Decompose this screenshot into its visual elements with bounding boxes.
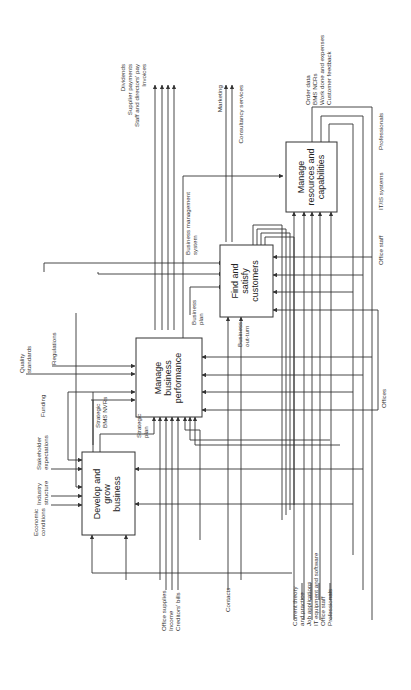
- svg-text:Business: Business: [190, 300, 197, 325]
- label-quality-standards: Quality standards: [18, 346, 32, 373]
- svg-text:resources and: resources and: [306, 148, 316, 205]
- svg-text:Order data: Order data: [304, 75, 311, 105]
- svg-text:Manage: Manage: [153, 362, 163, 395]
- svg-text:system: system: [191, 235, 198, 255]
- svg-text:expectations: expectations: [42, 435, 49, 470]
- svg-text:Office staff: Office staff: [319, 596, 326, 626]
- svg-text:performance: performance: [173, 353, 183, 404]
- svg-text:Invoices: Invoices: [140, 64, 147, 87]
- find-bottom-inputs: [228, 317, 241, 580]
- svg-text:business: business: [112, 476, 122, 512]
- svg-text:Marketing: Marketing: [216, 84, 223, 112]
- label-itis-systems: IT/IS systems: [377, 173, 384, 210]
- svg-text:Work done and expenses: Work done and expenses: [318, 35, 325, 105]
- svg-text:Economic: Economic: [32, 509, 39, 536]
- svg-text:Stakeholder: Stakeholder: [35, 437, 42, 470]
- svg-text:Regulations: Regulations: [50, 332, 57, 365]
- svg-text:Staff and directors' pay: Staff and directors' pay: [133, 63, 140, 127]
- svg-text:Supplier payments: Supplier payments: [126, 64, 133, 115]
- svg-text:conditions: conditions: [39, 508, 46, 536]
- svg-text:Strategic: Strategic: [94, 404, 101, 428]
- svg-text:Professionals: Professionals: [326, 589, 333, 626]
- svg-text:and practice: and practice: [298, 592, 305, 626]
- label-office-staff-mech: Office staff: [377, 235, 384, 265]
- label-offices: Offices: [380, 389, 387, 408]
- svg-text:customers: customers: [250, 260, 260, 302]
- svg-text:Job applications: Job applications: [305, 582, 312, 626]
- svg-text:grow: grow: [102, 484, 112, 504]
- diagram-canvas: Develop and grow business Manage busines…: [0, 0, 411, 690]
- svg-text:business: business: [163, 360, 173, 396]
- svg-text:Customer feedback: Customer feedback: [325, 50, 332, 105]
- label-resources-outputs: Order data BMS NCRs Work done and expens…: [304, 35, 332, 105]
- marketing-output-arrows: [226, 85, 232, 242]
- label-resource-inputs: Current theory and practice Job applicat…: [291, 552, 333, 626]
- svg-text:Professionals: Professionals: [377, 113, 384, 150]
- label-business-outturn: Business out-turn: [236, 322, 250, 347]
- svg-text:Office supplies: Office supplies: [160, 591, 167, 631]
- svg-text:Offices: Offices: [380, 389, 387, 408]
- svg-text:BMS NVRs: BMS NVRs: [101, 397, 108, 428]
- label-economic-conditions: Economic conditions: [32, 508, 46, 536]
- label-professionals-mech: Professionals: [377, 113, 384, 150]
- svg-text:plan: plan: [142, 426, 149, 438]
- svg-text:Consultancy services: Consultancy services: [237, 85, 244, 143]
- svg-text:Creditors' bills: Creditors' bills: [174, 592, 181, 631]
- svg-text:Funding: Funding: [39, 394, 46, 417]
- svg-text:Business: Business: [236, 322, 243, 347]
- svg-text:standards: standards: [25, 346, 32, 373]
- svg-text:capabilities: capabilities: [316, 154, 326, 199]
- svg-text:Office staff: Office staff: [377, 235, 384, 265]
- label-bms-system: Business management system: [184, 192, 198, 255]
- idef0-diagram: Develop and grow business Manage busines…: [0, 0, 411, 690]
- svg-text:IT equipment and software: IT equipment and software: [312, 552, 319, 626]
- label-regulations: Regulations: [50, 332, 57, 365]
- label-marketing: Marketing: [216, 84, 223, 112]
- svg-text:satisfy: satisfy: [240, 268, 250, 294]
- svg-text:Find and: Find and: [230, 263, 240, 298]
- svg-text:plan: plan: [197, 313, 204, 325]
- label-contacts: Contacts: [224, 588, 231, 612]
- svg-text:IT/IS systems: IT/IS systems: [377, 173, 384, 210]
- svg-text:Industry: Industry: [35, 482, 42, 505]
- label-finance-inputs: Office supplies Income Creditors' bills: [160, 591, 181, 631]
- svg-text:Income: Income: [167, 610, 174, 631]
- svg-text:Strategic: Strategic: [135, 414, 142, 438]
- svg-text:Business management: Business management: [184, 192, 191, 255]
- label-business-plan: Business plan: [190, 300, 204, 325]
- svg-text:out-turn: out-turn: [243, 325, 250, 347]
- finance-output-arrows: [155, 85, 174, 330]
- svg-text:Manage: Manage: [296, 161, 306, 194]
- label-industry-structure: Industry structure: [35, 480, 49, 505]
- svg-text:Contacts: Contacts: [224, 588, 231, 612]
- label-stakeholder-expectations: Stakeholder expectations: [35, 435, 49, 470]
- label-finance-outputs: Dividends Supplier payments Staff and di…: [119, 63, 147, 127]
- svg-text:Develop and: Develop and: [92, 469, 102, 520]
- svg-text:Quality: Quality: [18, 353, 25, 373]
- svg-text:structure: structure: [42, 480, 49, 505]
- svg-text:Current theory: Current theory: [291, 586, 298, 626]
- svg-text:Dividends: Dividends: [119, 64, 126, 91]
- svg-text:BMS NCRs: BMS NCRs: [311, 73, 318, 105]
- label-strategic-bms: Strategic BMS NVRs: [94, 397, 108, 428]
- label-consultancy: Consultancy services: [237, 85, 244, 143]
- develop-bottom-inputs: [92, 535, 292, 580]
- label-funding: Funding: [39, 394, 46, 417]
